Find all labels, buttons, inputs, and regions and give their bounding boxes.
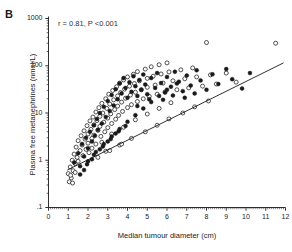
data-point-open [224,71,228,75]
x-tick-label: 9 [219,213,233,220]
data-point-filled [90,139,94,143]
data-point-open [91,115,95,119]
data-point-open [76,139,80,143]
data-point-filled [171,93,175,97]
data-point-open [175,88,179,92]
data-point-open [117,113,121,117]
data-point-filled [96,128,100,132]
data-point-filled [143,83,147,87]
data-point-filled [173,70,177,74]
data-point-open [121,109,125,113]
x-tick-label: 8 [200,213,214,220]
x-tick-label: 3 [101,213,115,220]
data-point-filled [133,113,137,117]
data-point-filled [86,146,90,150]
data-point-filled [85,162,89,166]
data-point-open [76,159,80,163]
data-point-filled [78,172,82,176]
data-point-filled [110,93,114,97]
data-point-open [116,104,120,108]
data-point-open [234,80,238,84]
x-tick-label: 12 [279,213,292,220]
x-tick-label: 0 [42,213,56,220]
data-point-filled [149,76,153,80]
data-point-filled [240,87,244,91]
data-point-filled [117,129,121,133]
data-point-open [133,90,137,94]
data-point-open [191,66,195,70]
y-tick-label: 1 [17,156,43,163]
data-point-filled [129,90,133,94]
data-point-open [169,101,173,105]
data-point-open [167,70,171,74]
data-point-open [145,76,149,80]
data-point-filled [155,71,159,75]
data-point-filled [95,117,99,121]
data-point-open [72,152,76,156]
data-point-open [143,67,147,71]
data-point-filled [189,84,193,88]
x-tick-label: 6 [160,213,174,220]
data-point-filled [139,88,143,92]
data-point-filled [183,96,187,100]
x-tick-label: 7 [180,213,194,220]
data-point-open [106,126,110,130]
data-point-open [86,141,90,145]
data-point-filled [124,124,128,128]
data-point-open [112,98,116,102]
data-point-filled [159,81,163,85]
data-point-open [103,130,107,134]
data-point-open [88,119,92,123]
data-point-open [97,106,101,110]
data-point-open [149,65,153,69]
data-point-filled [84,136,88,140]
data-point-open [99,134,103,138]
axes-group [45,17,285,211]
data-point-open [75,155,79,159]
data-point-filled [141,106,145,110]
data-point-filled [195,68,199,72]
data-point-filled [141,73,145,77]
data-point-open [133,118,137,122]
data-point-filled [127,80,131,84]
data-point-open [87,151,91,155]
x-tick-label: 10 [239,213,253,220]
x-tick-label: 2 [81,213,95,220]
data-point-filled [93,134,97,138]
data-point-open [73,171,77,175]
data-point-filled [153,86,157,90]
x-tick-label: 5 [140,213,154,220]
data-point-filled [210,72,214,76]
data-point-filled [82,168,86,172]
data-point-filled [126,120,130,124]
data-point-open [74,145,78,149]
data-point-filled [135,94,139,98]
data-point-filled [108,109,112,113]
data-point-filled [216,82,220,86]
data-point-filled [122,76,126,80]
data-point-filled [126,96,130,100]
data-point-open [145,112,149,116]
data-point-open [165,61,169,65]
y-tick-label: .1 [17,203,43,210]
data-point-filled [82,155,86,159]
data-point-filled [102,105,106,109]
data-point-filled [88,130,92,134]
data-point-filled [230,77,234,81]
data-point-open [135,100,139,104]
data-point-filled [137,78,141,82]
data-point-open [274,41,278,45]
data-point-filled [147,97,151,101]
data-point-open [201,84,205,88]
y-tick-label: 1000 [17,14,43,21]
data-points-group [66,41,277,185]
data-point-filled [181,89,185,93]
data-point-open [82,129,86,133]
data-point-filled [145,92,149,96]
data-point-open [113,108,117,112]
data-point-open [90,146,94,150]
data-point-open [114,117,118,121]
data-point-filled [104,115,108,119]
data-point-open [94,142,98,146]
figure-panel-b: B r = 0.81, P <0.001 Plasma free metanep… [0,0,291,252]
